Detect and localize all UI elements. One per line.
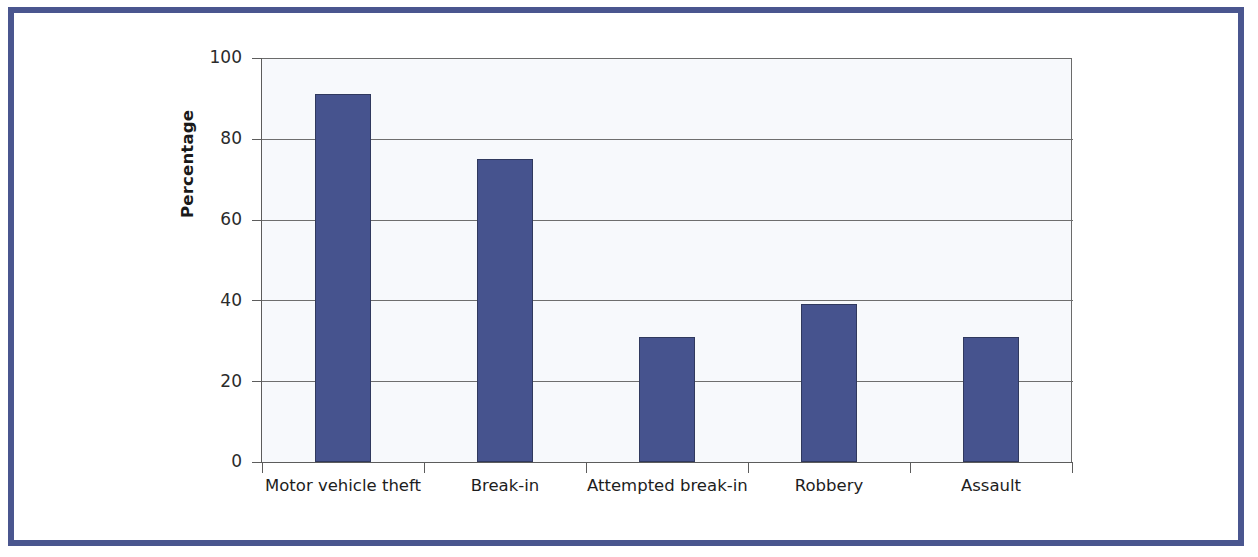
- x-label-break-in: Break-in: [425, 477, 585, 495]
- figure-root: 100 80 60 40 20 0 Percentage Motor vehic…: [0, 0, 1258, 557]
- y-tick-label-40: 40: [200, 292, 242, 309]
- y-tick-mark-60: [252, 220, 261, 221]
- y-tick-mark-80: [252, 139, 261, 140]
- bar-break-in[interactable]: [477, 159, 533, 462]
- y-tick-label-20: 20: [200, 373, 242, 390]
- y-tick-label-100: 100: [200, 49, 242, 66]
- x-separator-tick-1: [262, 462, 263, 473]
- y-tick-mark-100: [252, 58, 261, 59]
- bar-motor-vehicle-theft[interactable]: [315, 94, 371, 462]
- y-axis-line: [261, 58, 262, 462]
- x-label-attempted-break-in: Attempted break-in: [587, 477, 747, 495]
- x-label-assault: Assault: [911, 477, 1071, 495]
- x-label-motor-vehicle-theft: Motor vehicle theft: [263, 477, 423, 495]
- y-tick-label-80: 80: [200, 130, 242, 147]
- bar-chart: 100 80 60 40 20 0 Percentage Motor vehic…: [0, 0, 1258, 557]
- bar-attempted-break-in[interactable]: [639, 337, 695, 462]
- x-separator-tick-4: [748, 462, 749, 473]
- y-tick-label-0: 0: [200, 453, 242, 470]
- y-tick-mark-0: [252, 462, 261, 463]
- y-tick-mark-40: [252, 300, 261, 301]
- gridline-80: [261, 139, 1073, 140]
- bar-assault[interactable]: [963, 337, 1019, 462]
- y-axis-title: Percentage: [178, 110, 197, 218]
- y-tick-mark-20: [252, 381, 261, 382]
- bar-robbery[interactable]: [801, 304, 857, 462]
- x-axis-line: [261, 462, 1073, 463]
- x-separator-tick-3: [586, 462, 587, 473]
- y-tick-label-60: 60: [200, 211, 242, 228]
- x-label-robbery: Robbery: [749, 477, 909, 495]
- gridline-40: [261, 300, 1073, 301]
- gridline-60: [261, 220, 1073, 221]
- x-separator-tick-5: [910, 462, 911, 473]
- x-separator-tick-6: [1072, 462, 1073, 473]
- x-separator-tick-2: [424, 462, 425, 473]
